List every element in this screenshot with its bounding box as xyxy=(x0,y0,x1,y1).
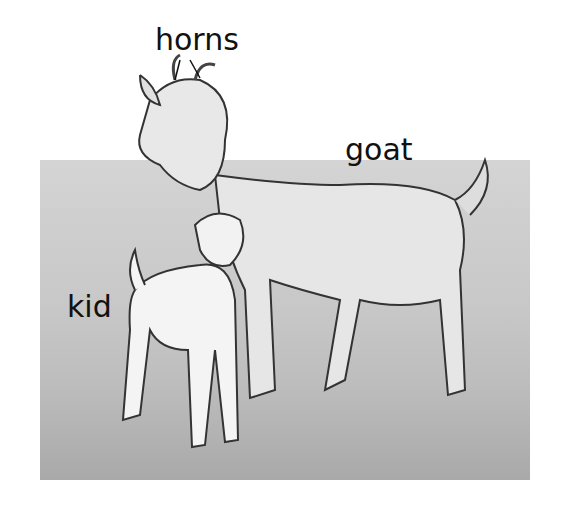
label-goat: goat xyxy=(345,135,413,165)
goat-illustration xyxy=(0,0,575,513)
kid-head xyxy=(195,214,243,266)
label-kid: kid xyxy=(67,292,112,322)
diagram-canvas: horns goat kid xyxy=(0,0,575,513)
goat-ear xyxy=(140,75,160,105)
kid-tail xyxy=(130,250,145,290)
goat-tail xyxy=(455,160,488,215)
kid-body xyxy=(123,264,238,447)
goat-body xyxy=(215,175,465,398)
label-horns: horns xyxy=(155,25,239,55)
